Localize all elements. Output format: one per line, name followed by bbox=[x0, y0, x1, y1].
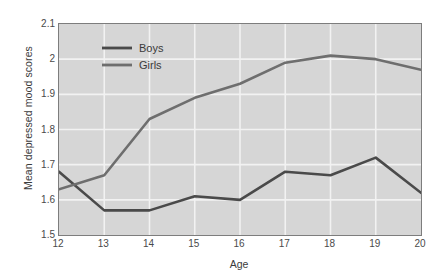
plot-svg: BoysGirls bbox=[59, 24, 421, 235]
x-tick-label: 17 bbox=[269, 238, 299, 249]
x-tick-label: 15 bbox=[179, 238, 209, 249]
y-tick-label: 1.6 bbox=[25, 193, 55, 204]
y-axis-tick-labels: 1.51.61.71.81.922.1 bbox=[22, 0, 55, 278]
x-tick-label: 18 bbox=[315, 238, 345, 249]
y-tick-label: 1.7 bbox=[25, 158, 55, 169]
y-tick-label: 2 bbox=[25, 53, 55, 64]
legend: BoysGirls bbox=[102, 42, 164, 71]
y-tick-label: 1.9 bbox=[25, 88, 55, 99]
y-tick-label: 1.8 bbox=[25, 123, 55, 134]
depressed-mood-line-chart: Mean depressed mood scores 1.51.61.71.81… bbox=[0, 0, 435, 278]
x-tick-label: 20 bbox=[405, 238, 435, 249]
gridlines bbox=[59, 24, 421, 235]
legend-label-girls: Girls bbox=[139, 59, 162, 71]
x-tick-label: 12 bbox=[43, 238, 73, 249]
legend-label-boys: Boys bbox=[139, 42, 164, 54]
x-tick-label: 14 bbox=[134, 238, 164, 249]
plot-area: BoysGirls bbox=[58, 23, 422, 236]
x-tick-label: 16 bbox=[224, 238, 254, 249]
x-axis-title: Age bbox=[58, 258, 420, 270]
y-tick-label: 2.1 bbox=[25, 18, 55, 29]
x-tick-label: 19 bbox=[360, 238, 390, 249]
x-tick-label: 13 bbox=[88, 238, 118, 249]
